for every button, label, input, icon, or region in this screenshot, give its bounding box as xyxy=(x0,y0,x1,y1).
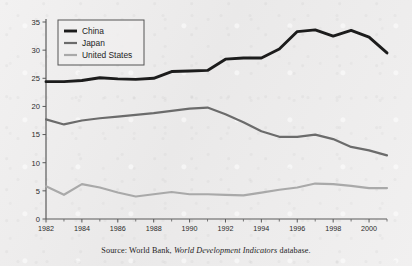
y-tick-label: 35 xyxy=(32,18,40,27)
y-axis: 05101520253035 xyxy=(32,18,46,224)
source-prefix: Source: World Bank, xyxy=(101,246,171,255)
x-tick-label: 1998 xyxy=(325,224,341,233)
source-publication: World Development Indicators xyxy=(174,246,277,255)
x-tick-label: 1992 xyxy=(217,224,233,233)
x-tick-label: 1988 xyxy=(146,224,162,233)
x-axis: 1982198419861988199019921994199619982000 xyxy=(38,219,387,233)
legend-label-japan: Japan xyxy=(82,38,105,48)
chart-legend: ChinaJapanUnited States xyxy=(58,20,144,65)
x-tick-label: 1982 xyxy=(38,224,54,233)
x-tick-label: 1996 xyxy=(289,224,305,233)
y-tick-label: 0 xyxy=(36,215,40,224)
source-suffix: database. xyxy=(280,246,311,255)
source-note: Source: World Bank, World Development In… xyxy=(0,246,412,255)
x-tick-label: 1990 xyxy=(182,224,198,233)
y-tick-label: 25 xyxy=(32,74,40,83)
chart-canvas: 05101520253035 1982198419861988199019921… xyxy=(0,0,412,246)
y-tick-label: 5 xyxy=(36,187,40,196)
x-tick-label: 1986 xyxy=(110,224,126,233)
legend-label-china: China xyxy=(82,26,104,36)
y-tick-label: 20 xyxy=(32,102,40,111)
x-tick-label: 1984 xyxy=(74,224,90,233)
x-tick-label: 2000 xyxy=(361,224,377,233)
series-line-japan xyxy=(46,108,387,156)
y-tick-label: 30 xyxy=(32,46,40,55)
x-tick-label: 1994 xyxy=(253,224,269,233)
y-tick-label: 15 xyxy=(32,130,40,139)
line-chart-figure: 05101520253035 1982198419861988199019921… xyxy=(0,0,412,266)
legend-label-united-states: United States xyxy=(82,50,132,60)
series-line-united-states xyxy=(46,184,387,197)
y-tick-label: 10 xyxy=(32,159,40,168)
